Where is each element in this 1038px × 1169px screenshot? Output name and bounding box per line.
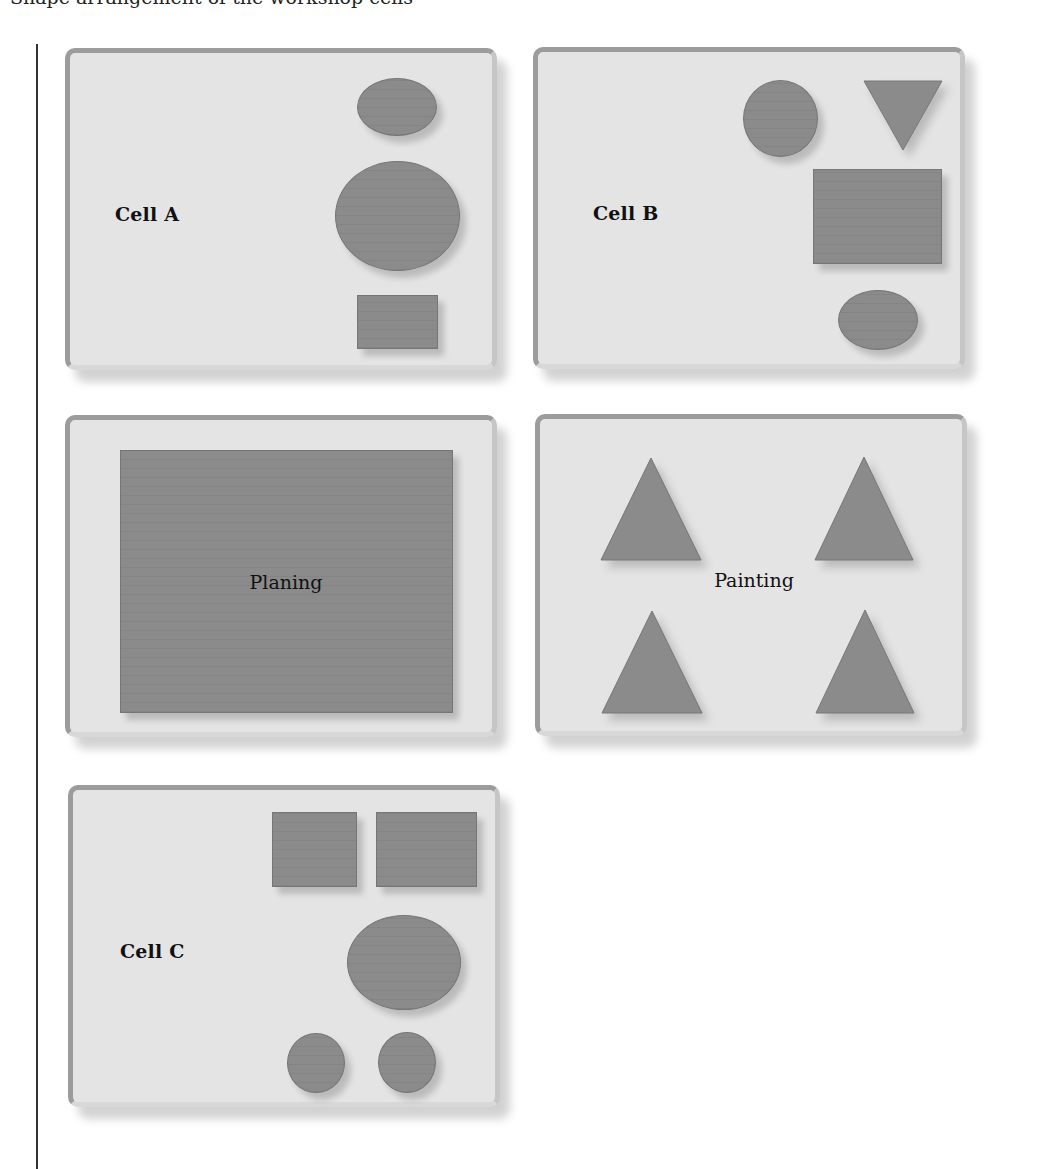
cell-a-label: Cell A xyxy=(115,203,179,225)
planing-card: Planing xyxy=(65,415,497,737)
cell-c-small-circle-right xyxy=(378,1032,436,1093)
cell-c-square-right xyxy=(376,812,477,887)
cell-c-label: Cell C xyxy=(120,940,185,962)
cell-c-small-circle-left xyxy=(287,1033,345,1093)
cell-b-label: Cell B xyxy=(593,202,659,224)
cell-a-small-rectangle xyxy=(357,295,438,349)
painting-card: Painting xyxy=(535,414,967,736)
painting-triangle-top-left xyxy=(600,457,702,561)
painting-triangle-top-right xyxy=(814,456,914,561)
cell-a-small-ellipse xyxy=(357,78,437,136)
cell-b-card: Cell B xyxy=(533,47,965,369)
cell-c-large-ellipse xyxy=(347,915,461,1010)
cell-a-large-circle xyxy=(335,161,460,271)
cell-b-large-rectangle xyxy=(813,169,942,264)
cell-c-card: Cell C xyxy=(68,785,500,1107)
cutoff-header-text: Shape arrangement of the workshop cells xyxy=(10,0,413,8)
cell-a-card: Cell A xyxy=(65,48,497,370)
painting-triangle-bottom-right xyxy=(815,609,915,714)
painting-triangle-bottom-left xyxy=(601,610,703,714)
margin-rule xyxy=(36,44,38,1169)
planing-label: Planing xyxy=(250,571,323,593)
cell-c-square-left xyxy=(272,812,357,887)
cell-b-circle xyxy=(743,80,818,157)
cell-b-inverted-triangle xyxy=(863,80,943,152)
painting-label: Painting xyxy=(714,569,794,591)
cell-b-small-ellipse xyxy=(838,290,918,350)
